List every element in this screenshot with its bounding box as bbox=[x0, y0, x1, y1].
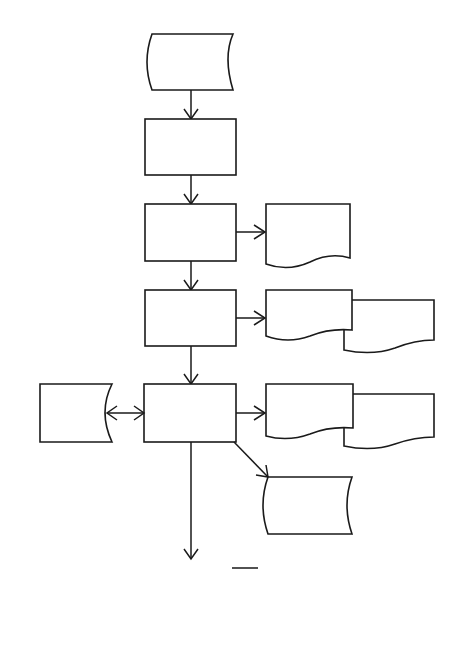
node-sort-process[interactable] bbox=[145, 119, 236, 175]
node-picking-program[interactable] bbox=[145, 204, 236, 261]
edge-suspense-backorder-bidirectional bbox=[107, 406, 144, 420]
edge-sort-to-picking bbox=[184, 175, 198, 204]
edge-suspense-to-invoice bbox=[184, 442, 198, 559]
node-back-order-report-document[interactable] bbox=[344, 394, 434, 449]
node-customer-order-file[interactable] bbox=[147, 34, 233, 90]
node-picking-labels-document[interactable] bbox=[266, 204, 350, 268]
node-suspense-report-document[interactable] bbox=[266, 384, 353, 439]
node-bills-of-lading-document[interactable] bbox=[344, 300, 434, 353]
edge-picking-to-packing bbox=[184, 261, 198, 290]
edge-suspense-to-new-file bbox=[234, 442, 268, 477]
edge-packing-to-slips bbox=[236, 311, 265, 325]
flowchart-canvas bbox=[0, 0, 457, 662]
node-packing-slips-document[interactable] bbox=[266, 290, 352, 340]
edge-customer-to-sort bbox=[184, 90, 198, 119]
node-suspense-program[interactable] bbox=[144, 384, 236, 442]
edge-picking-to-labels bbox=[236, 225, 265, 239]
edge-suspense-to-report bbox=[236, 406, 265, 420]
node-back-order-file[interactable] bbox=[40, 384, 112, 442]
node-new-suspense-file[interactable] bbox=[263, 477, 352, 534]
node-packing-program[interactable] bbox=[145, 290, 236, 346]
edge-packing-to-suspense bbox=[184, 346, 198, 384]
